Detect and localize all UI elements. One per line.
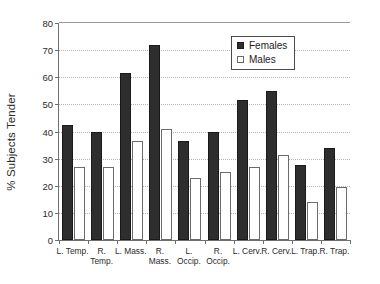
gridline-30 xyxy=(59,159,350,160)
y-tick-label-70: 70 xyxy=(42,45,53,56)
bar-females-2 xyxy=(120,73,131,240)
chart-legend: Females Males xyxy=(231,36,295,70)
x-axis-label-9: R. Trap. xyxy=(316,246,353,256)
bar-males-0 xyxy=(74,167,85,240)
gridline-70 xyxy=(59,50,350,51)
y-tick-60 xyxy=(55,77,59,78)
x-tick-origin xyxy=(59,240,60,244)
open-square-icon xyxy=(237,56,244,63)
bar-males-8 xyxy=(307,202,318,240)
x-tick-8 xyxy=(321,240,322,244)
bar-females-4 xyxy=(178,141,189,240)
legend-label-males: Males xyxy=(249,54,276,65)
gridline-60 xyxy=(59,77,350,78)
x-tick-2 xyxy=(146,240,147,244)
bar-males-7 xyxy=(278,155,289,240)
y-tick-label-50: 50 xyxy=(42,99,53,110)
bar-males-2 xyxy=(132,141,143,240)
y-tick-label-10: 10 xyxy=(42,207,53,218)
plot-top-border xyxy=(59,22,350,23)
x-tick-6 xyxy=(263,240,264,244)
bar-males-6 xyxy=(249,167,260,240)
y-tick-label-0: 0 xyxy=(48,235,53,246)
x-tick-0 xyxy=(88,240,89,244)
x-tick-9 xyxy=(350,240,351,244)
bar-females-9 xyxy=(324,148,335,240)
y-tick-50 xyxy=(55,104,59,105)
y-tick-70 xyxy=(55,50,59,51)
bar-females-8 xyxy=(295,165,306,240)
legend-item-females: Females xyxy=(237,40,287,51)
x-tick-5 xyxy=(234,240,235,244)
bar-females-0 xyxy=(62,125,73,240)
bar-males-4 xyxy=(190,178,201,240)
x-tick-4 xyxy=(205,240,206,244)
y-tick-label-20: 20 xyxy=(42,180,53,191)
bar-females-1 xyxy=(91,132,102,241)
y-tick-label-30: 30 xyxy=(42,153,53,164)
y-axis-title: % Subjects Tender xyxy=(0,0,22,284)
bar-males-3 xyxy=(161,129,172,240)
bar-females-6 xyxy=(237,100,248,240)
bar-females-7 xyxy=(266,91,277,240)
x-tick-7 xyxy=(292,240,293,244)
plot-area: 01020304050607080 xyxy=(58,23,350,241)
bar-females-5 xyxy=(208,132,219,241)
bar-males-5 xyxy=(220,172,231,240)
y-tick-label-60: 60 xyxy=(42,72,53,83)
bar-males-1 xyxy=(103,167,114,240)
gridline-50 xyxy=(59,104,350,105)
x-tick-1 xyxy=(117,240,118,244)
y-tick-30 xyxy=(55,159,59,160)
legend-label-females: Females xyxy=(249,40,287,51)
y-tick-20 xyxy=(55,186,59,187)
gridline-40 xyxy=(59,132,350,133)
bar-chart: % Subjects Tender 01020304050607080 L. T… xyxy=(0,0,380,284)
y-tick-label-80: 80 xyxy=(42,18,53,29)
y-tick-40 xyxy=(55,132,59,133)
bar-males-9 xyxy=(336,187,347,240)
y-tick-10 xyxy=(55,213,59,214)
y-tick-label-40: 40 xyxy=(42,126,53,137)
filled-square-icon xyxy=(237,42,244,49)
legend-item-males: Males xyxy=(237,54,287,65)
x-tick-3 xyxy=(175,240,176,244)
bar-females-3 xyxy=(149,45,160,240)
y-tick-80 xyxy=(55,23,59,24)
